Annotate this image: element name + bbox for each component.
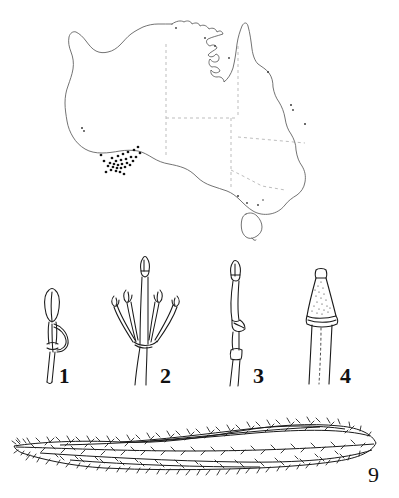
leaf-outline: [14, 425, 376, 470]
distribution-dots: [100, 146, 142, 176]
figure-2-androecium: [104, 252, 190, 388]
figure-1-label: 1: [59, 366, 70, 387]
australia-distribution-map: [0, 0, 399, 250]
botanical-plate: 1: [0, 0, 399, 498]
coastal-islets: [81, 27, 306, 206]
figure-4-label: 4: [340, 365, 351, 387]
figure-9-label: 9: [368, 464, 379, 486]
figure-2-label: 2: [160, 365, 171, 387]
tasmania-outline: [241, 213, 262, 240]
figure-1-anther-with-loop: [28, 278, 88, 386]
state-borders: [166, 44, 305, 190]
figure-9-hairy-leaf: [0, 398, 399, 498]
figure-3-label: 3: [253, 365, 264, 387]
